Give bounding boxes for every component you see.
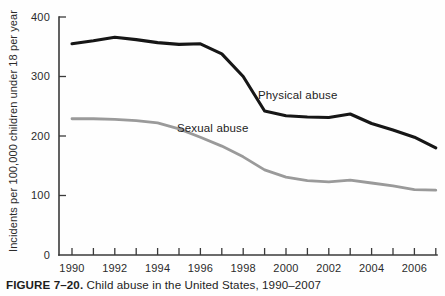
x-tick-label-2006: 2006	[402, 262, 427, 272]
x-tick-label-2004: 2004	[359, 262, 384, 272]
x-tick-label-2002: 2002	[316, 262, 341, 272]
series-line-physical-abuse	[72, 37, 436, 148]
x-tick-label-1998: 1998	[231, 262, 256, 272]
series-label-sexual-abuse: Sexual abuse	[177, 122, 249, 134]
y-axis-ticks	[59, 17, 66, 196]
y-tick-label-0: 0	[44, 249, 50, 261]
y-axis-title: Incidents per 100,000 children under 18 …	[7, 10, 19, 252]
figure-container: Incidents per 100,000 children under 18 …	[0, 0, 445, 296]
x-tick-label-1994: 1994	[145, 262, 170, 272]
y-tick-label-100: 100	[31, 189, 50, 201]
y-tick-label-200: 200	[31, 130, 50, 142]
y-tick-label-300: 300	[31, 70, 50, 82]
caption-line: FIGURE 7–20. Child abuse in the United S…	[6, 278, 321, 291]
figure-caption: FIGURE 7–20. Child abuse in the United S…	[0, 272, 445, 296]
series-line-sexual-abuse	[72, 119, 436, 190]
x-tick-label-1990: 1990	[59, 262, 84, 272]
x-axis-tick-labels: 1990 1992 1994 1996 1998 2000 2002 2004 …	[59, 262, 427, 272]
x-axis-ticks	[72, 248, 436, 255]
caption-description: Child abuse in the United States, 1990–2…	[87, 278, 321, 291]
y-tick-label-400: 400	[31, 11, 50, 23]
x-tick-label-1992: 1992	[102, 262, 127, 272]
line-chart: Incidents per 100,000 children under 18 …	[0, 0, 445, 272]
series-label-physical-abuse: Physical abuse	[258, 89, 337, 101]
x-tick-label-2000: 2000	[273, 262, 298, 272]
x-tick-label-1996: 1996	[188, 262, 213, 272]
caption-figure-number: FIGURE 7–20.	[6, 278, 83, 291]
y-axis-tick-labels: 400 300 200 100 0	[31, 11, 50, 261]
